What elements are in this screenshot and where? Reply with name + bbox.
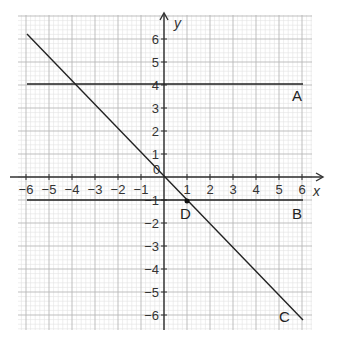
y-tick-label: 1 <box>152 147 159 162</box>
y-tick-label: 3 <box>152 101 159 116</box>
x-tick-label: 3 <box>229 182 236 197</box>
axes <box>10 13 323 330</box>
y-tick-label: 5 <box>152 55 159 70</box>
line-c-label: C <box>279 308 290 325</box>
x-tick-label: 6 <box>298 182 305 197</box>
line-a-label: A <box>292 87 302 104</box>
y-axis-label: y <box>173 15 182 31</box>
coordinate-graph: −6−5−4−3−2−1123456654321−1−2−3−4−5−6 x y… <box>0 0 342 354</box>
y-tick-label: 4 <box>152 78 159 93</box>
y-tick-label: −5 <box>144 285 159 300</box>
x-tick-label: −6 <box>19 182 34 197</box>
y-tick-label: −2 <box>144 216 159 231</box>
origin-label: 0 <box>153 162 160 177</box>
y-tick-label: 2 <box>152 124 159 139</box>
x-tick-label: 4 <box>252 182 259 197</box>
x-tick-label: −3 <box>88 182 103 197</box>
point-d-marker <box>185 199 190 204</box>
y-tick-label: 6 <box>152 32 159 47</box>
x-axis-label: x <box>312 183 321 199</box>
line-b-label: B <box>292 205 302 222</box>
y-tick-label: −6 <box>144 308 159 323</box>
x-tick-label: 2 <box>206 182 213 197</box>
x-tick-label: −4 <box>65 182 80 197</box>
x-tick-label: 5 <box>275 182 282 197</box>
x-tick-label: 1 <box>183 182 190 197</box>
y-tick-label: −4 <box>144 262 159 277</box>
point-d-label: D <box>180 205 191 222</box>
y-tick-label: −3 <box>144 239 159 254</box>
x-tick-label: −2 <box>111 182 126 197</box>
x-tick-label: −5 <box>42 182 57 197</box>
